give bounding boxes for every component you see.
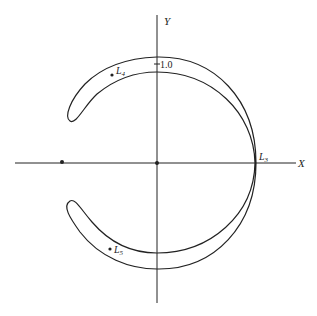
- y-axis-label: Y: [164, 15, 172, 27]
- l4-label: L4: [115, 65, 126, 78]
- l4-point: [110, 73, 113, 76]
- x-axis-label: X: [297, 157, 306, 169]
- primary-point: [60, 160, 64, 164]
- y-tick-label: 1.0: [160, 59, 173, 70]
- horseshoe-orbit-diagram: Y X 1.0 L3 L4 L5: [0, 0, 317, 316]
- l3-label: L3: [258, 151, 269, 164]
- l5-point: [108, 247, 111, 250]
- origin-point: [155, 161, 159, 165]
